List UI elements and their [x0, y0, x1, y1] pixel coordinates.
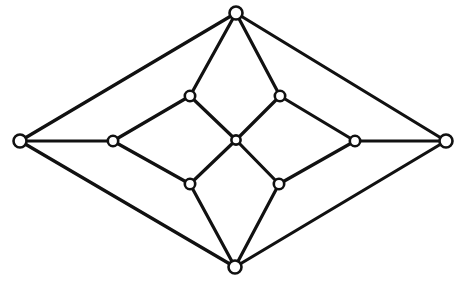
graph-vertex-leftmid: left middle: [108, 136, 118, 146]
graph-edge-ll-center: [190, 140, 236, 184]
graph-edge-bottom-left: [20, 141, 235, 267]
graph-vertex-right: right apex: [440, 135, 453, 148]
graph-edge-rightmid-ur: [280, 96, 355, 141]
graph-edge-ul-center: [190, 96, 236, 140]
graph-vertex-ur: upper right inner: [275, 91, 285, 101]
graph-vertex-left: left apex: [14, 135, 27, 148]
graph-edge-ur-center: [236, 96, 280, 140]
graph-edge-leftmid-ul: [113, 96, 190, 141]
graph-edge-left-top: [20, 13, 236, 141]
graph-vertex-ul: upper left inner: [185, 91, 195, 101]
graph-vertex-top: top apex: [230, 7, 243, 20]
graph-canvas: top apexbottom apexleft apexright apexle…: [0, 0, 465, 281]
graph-edge-lr-center: [236, 140, 279, 184]
graph-vertex-rightmid: right middle: [350, 136, 360, 146]
graph-figure: top apexbottom apexleft apexright apexle…: [0, 0, 465, 281]
graph-vertex-lr: lower right inner: [274, 179, 284, 189]
graph-vertex-ll: lower left inner: [185, 179, 195, 189]
graph-edge-leftmid-ll: [113, 141, 190, 184]
graph-edge-rightmid-lr: [279, 141, 355, 184]
graph-vertex-bottom: bottom apex: [229, 261, 242, 274]
graph-edge-top-right: [236, 13, 446, 141]
graph-vertex-center: center hub: [231, 135, 240, 144]
